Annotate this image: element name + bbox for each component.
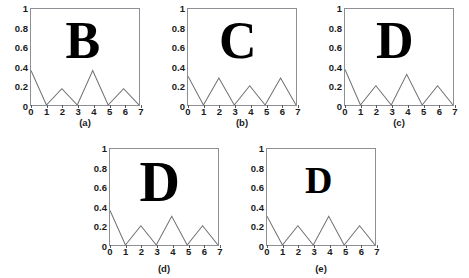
x-tick-mark [283, 245, 284, 248]
y-tick-label: 0.6 [251, 183, 264, 193]
x-tick-label: 6 [280, 107, 285, 117]
y-tick-label: 0.6 [94, 183, 107, 193]
x-tick-mark [220, 245, 221, 248]
x-tick-label: 7 [374, 247, 379, 257]
y-tick-label: 0.4 [15, 63, 28, 73]
y-tick-label: 0.2 [172, 83, 185, 93]
x-tick-label: 3 [154, 247, 159, 257]
panel-caption-e: (e) [266, 264, 376, 274]
x-tick-mark [298, 105, 299, 108]
x-tick-mark [173, 245, 174, 248]
x-tick-mark [361, 105, 362, 108]
letter-annotation-d: D [139, 154, 179, 210]
x-tick-mark [376, 105, 377, 108]
letter-annotation-e: D [305, 161, 332, 199]
x-tick-mark [346, 245, 347, 248]
x-tick-label: 4 [170, 247, 175, 257]
x-tick-mark [62, 105, 63, 108]
y-tick-label: 0 [337, 102, 342, 112]
x-tick-mark [345, 105, 346, 108]
plot-area-b: 00.20.40.60.8101234567C [187, 8, 297, 106]
x-tick-label: 6 [359, 247, 364, 257]
x-tick-label: 7 [138, 107, 143, 117]
x-tick-label: 5 [107, 107, 112, 117]
x-tick-label: 2 [296, 247, 301, 257]
x-tick-label: 1 [280, 247, 285, 257]
y-tick-label: 0 [259, 242, 264, 252]
y-tick-label: 0.4 [329, 63, 342, 73]
y-tick-label: 0.6 [15, 43, 28, 53]
y-tick-label: 0.2 [251, 223, 264, 233]
x-tick-mark [392, 105, 393, 108]
y-tick-label: 0.6 [172, 43, 185, 53]
x-tick-label: 3 [311, 247, 316, 257]
x-tick-mark [267, 245, 268, 248]
chart-panel-c: 00.20.40.60.8101234567D(c) [314, 0, 459, 130]
data-polyline [188, 76, 296, 105]
y-tick-label: 0.4 [94, 203, 107, 213]
x-tick-label: 0 [342, 107, 347, 117]
x-tick-label: 0 [185, 107, 190, 117]
x-tick-label: 2 [60, 107, 65, 117]
x-tick-mark [298, 245, 299, 248]
x-tick-mark [267, 105, 268, 108]
x-tick-mark [408, 105, 409, 108]
y-tick-label: 0.4 [251, 203, 264, 213]
x-tick-label: 4 [405, 107, 410, 117]
chart-panel-e: 00.20.40.60.8101234567D(e) [236, 140, 381, 278]
x-tick-label: 4 [91, 107, 96, 117]
x-tick-mark [141, 105, 142, 108]
y-tick-label: 1 [180, 4, 185, 14]
x-tick-label: 6 [437, 107, 442, 117]
figure-panel-grid: 00.20.40.60.8101234567B(a)00.20.40.60.81… [0, 0, 469, 278]
x-tick-mark [204, 245, 205, 248]
x-tick-label: 5 [421, 107, 426, 117]
panel-caption-a: (a) [30, 118, 140, 128]
x-tick-label: 3 [75, 107, 80, 117]
plot-area-e: 00.20.40.60.8101234567D [266, 148, 376, 246]
panel-caption-b: (b) [187, 118, 297, 128]
x-tick-label: 3 [232, 107, 237, 117]
x-tick-mark [157, 245, 158, 248]
y-tick-label: 0.8 [251, 164, 264, 174]
x-tick-label: 2 [374, 107, 379, 117]
x-tick-label: 1 [201, 107, 206, 117]
y-tick-label: 0.6 [329, 43, 342, 53]
chart-panel-b: 00.20.40.60.8101234567C(b) [157, 0, 302, 130]
y-tick-label: 1 [259, 144, 264, 154]
x-tick-label: 6 [202, 247, 207, 257]
x-tick-label: 7 [295, 107, 300, 117]
x-tick-label: 4 [248, 107, 253, 117]
plot-area-d: 00.20.40.60.8101234567D [109, 148, 219, 246]
x-tick-label: 5 [343, 247, 348, 257]
x-tick-mark [251, 105, 252, 108]
x-tick-mark [189, 245, 190, 248]
plot-area-c: 00.20.40.60.8101234567D [344, 8, 454, 106]
x-tick-mark [377, 245, 378, 248]
x-tick-mark [455, 105, 456, 108]
chart-panel-a: 00.20.40.60.8101234567B(a) [0, 0, 145, 130]
x-tick-mark [188, 105, 189, 108]
x-tick-mark [94, 105, 95, 108]
x-tick-label: 0 [264, 247, 269, 257]
x-tick-mark [141, 245, 142, 248]
y-tick-label: 0.8 [94, 164, 107, 174]
x-tick-mark [126, 245, 127, 248]
y-tick-label: 0.8 [172, 24, 185, 34]
data-polyline [31, 70, 139, 105]
x-tick-mark [125, 105, 126, 108]
y-tick-label: 0.4 [172, 63, 185, 73]
x-tick-mark [31, 105, 32, 108]
y-tick-label: 1 [337, 4, 342, 14]
letter-annotation-c: D [376, 15, 414, 67]
x-tick-mark [439, 105, 440, 108]
y-tick-label: 0.2 [329, 83, 342, 93]
x-tick-label: 3 [389, 107, 394, 117]
y-tick-label: 0 [102, 242, 107, 252]
x-tick-label: 1 [358, 107, 363, 117]
x-tick-label: 0 [28, 107, 33, 117]
x-tick-label: 2 [139, 247, 144, 257]
y-tick-label: 0.2 [15, 83, 28, 93]
x-tick-mark [47, 105, 48, 108]
y-tick-label: 0 [180, 102, 185, 112]
